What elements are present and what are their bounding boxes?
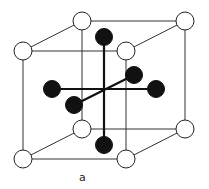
corner-atom-back-bottom-right bbox=[176, 120, 194, 138]
face-atom-back bbox=[126, 67, 143, 84]
corner-atom-back-top-left bbox=[73, 12, 91, 30]
corner-atom-front-top-right bbox=[117, 42, 135, 60]
face-atom-bottom bbox=[96, 137, 113, 154]
face-atom-front bbox=[66, 97, 83, 114]
crystal-lattice-diagram bbox=[0, 0, 209, 189]
face-atom-top bbox=[96, 29, 113, 46]
corner-atom-back-top-right bbox=[176, 12, 194, 30]
face-atom-left bbox=[44, 81, 61, 98]
corner-atom-front-bottom-right bbox=[117, 150, 135, 168]
corner-atom-back-bottom-left bbox=[73, 120, 91, 138]
corner-atom-front-bottom-left bbox=[14, 150, 32, 168]
face-atom-right bbox=[148, 81, 165, 98]
corner-atom-front-top-left bbox=[14, 42, 32, 60]
diagram-label: a bbox=[79, 171, 86, 184]
